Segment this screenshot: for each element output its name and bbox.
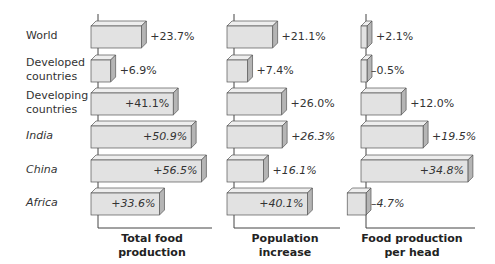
- panel-population-increase: +21.1%+7.4%+26.0%+26.3%+16.1%+40.1%Popul…: [227, 14, 340, 259]
- value-label: +6.9%: [120, 64, 157, 77]
- value-label: +26.3%: [291, 130, 335, 143]
- row-label: India: [26, 129, 53, 142]
- bar: [91, 55, 116, 82]
- bar: [361, 21, 372, 48]
- row-labels: WorldDevelopedcountriesDevelopingcountri…: [25, 29, 88, 209]
- bar: [347, 188, 371, 215]
- value-label: +2.1%: [376, 30, 413, 43]
- value-label: +19.5%: [432, 130, 476, 143]
- bar: [361, 88, 406, 115]
- panel-total-food-production: +23.7%+6.9%+41.1%+50.9%+56.5%+33.6%Total…: [91, 14, 212, 259]
- row-label: World: [26, 29, 58, 42]
- value-label: +41.1%: [125, 97, 169, 110]
- panels: +23.7%+6.9%+41.1%+50.9%+56.5%+33.6%Total…: [91, 14, 476, 259]
- bar: [227, 121, 287, 148]
- row-label: Developedcountries: [26, 56, 85, 83]
- bar: [91, 21, 146, 48]
- value-label: –4.7%: [371, 197, 404, 210]
- value-label: +33.6%: [111, 197, 155, 210]
- value-label: +21.1%: [282, 30, 326, 43]
- value-label: +12.0%: [410, 97, 454, 110]
- bar: [227, 88, 287, 115]
- value-label: +23.7%: [150, 30, 194, 43]
- bar: [361, 121, 428, 148]
- value-label: +50.9%: [143, 130, 187, 143]
- row-label: China: [26, 163, 58, 176]
- value-label: +16.1%: [272, 164, 316, 177]
- bar: [227, 155, 268, 182]
- value-label: +56.5%: [153, 164, 197, 177]
- x-axis-label: Food productionper head: [361, 232, 462, 259]
- x-axis-label: Populationincrease: [252, 232, 319, 259]
- bar: [227, 21, 278, 48]
- value-label: +26.0%: [291, 97, 335, 110]
- x-axis-label: Total foodproduction: [118, 232, 186, 259]
- bar: [227, 55, 253, 82]
- value-label: +40.1%: [259, 197, 303, 210]
- panel-food-production-per-head: +2.1%–0.5%+12.0%+19.5%+34.8%–4.7%Food pr…: [347, 14, 476, 259]
- value-label: +7.4%: [257, 64, 294, 77]
- row-label: Africa: [25, 196, 58, 209]
- value-label: +34.8%: [420, 164, 464, 177]
- row-label: Developingcountries: [26, 89, 88, 116]
- value-label: –0.5%: [371, 64, 404, 77]
- food-production-chart: WorldDevelopedcountriesDevelopingcountri…: [0, 0, 495, 264]
